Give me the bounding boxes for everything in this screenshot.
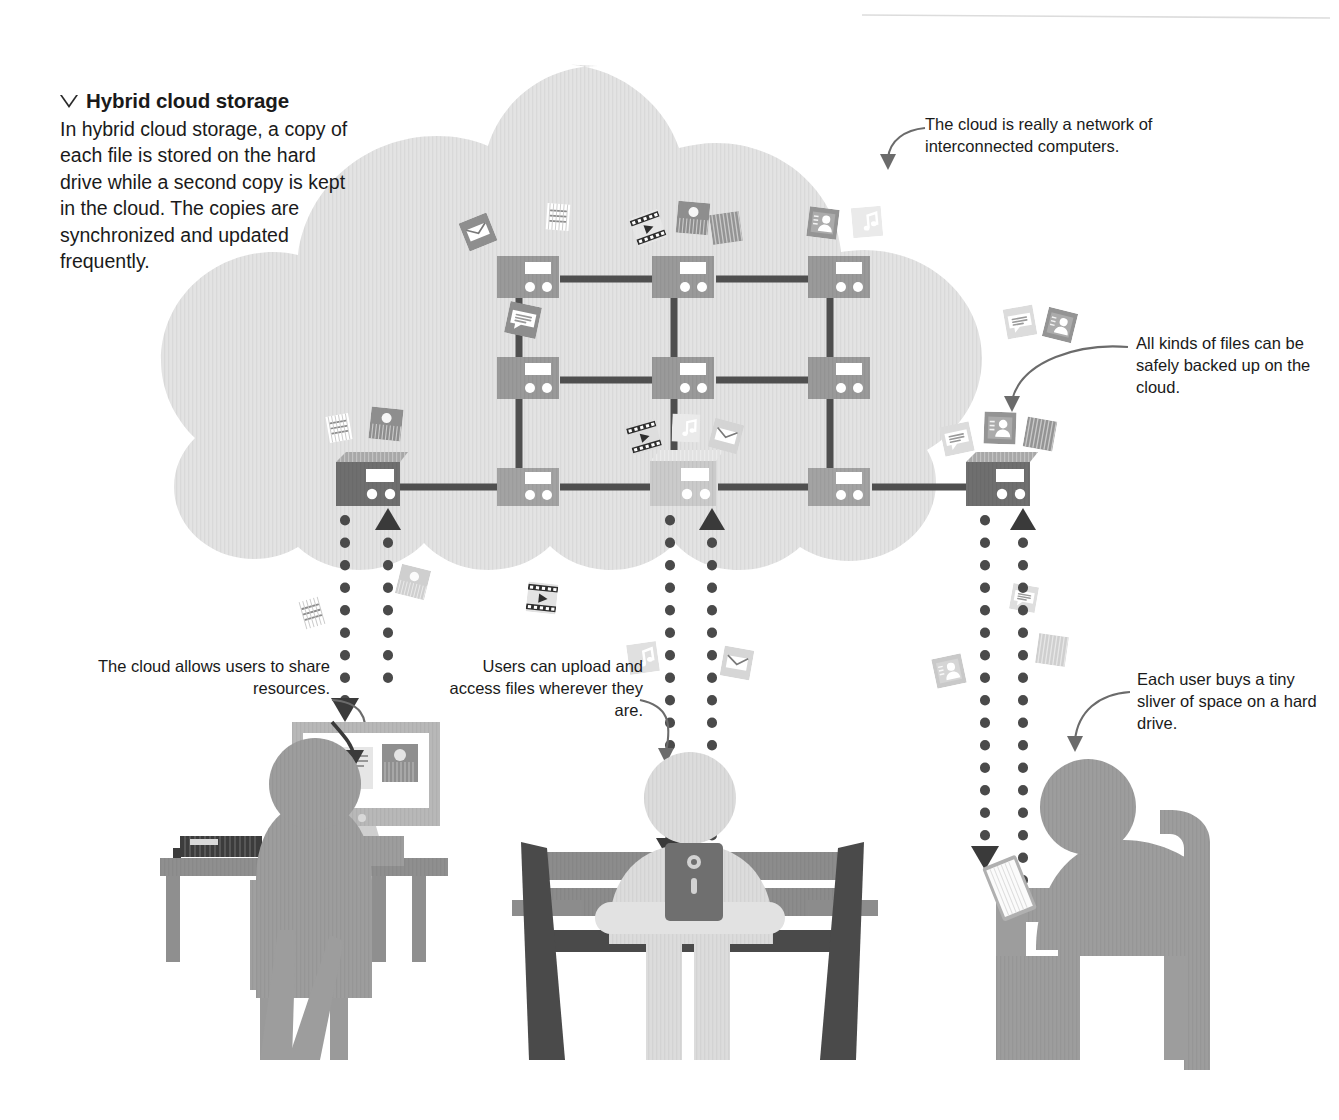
desk-leg-right	[372, 876, 386, 962]
leader-sliver	[1075, 692, 1130, 740]
intro-block: Hybrid cloud storage In hybrid cloud sto…	[60, 88, 360, 275]
server-mid-2	[652, 357, 714, 399]
triangle-down-icon	[60, 95, 78, 108]
callout-share: The cloud allows users to share resource…	[80, 655, 330, 699]
keyboard	[173, 836, 262, 858]
leader-files	[1012, 346, 1128, 400]
server-bottom-2	[497, 468, 559, 506]
contacts-icon	[931, 653, 967, 689]
contacts-icon	[1042, 307, 1078, 343]
intro-title-text: Hybrid cloud storage	[86, 88, 289, 115]
chair-leg-back	[1164, 956, 1186, 1060]
image-icon	[1035, 633, 1069, 667]
server-mid-1	[497, 357, 559, 399]
leader-upload	[640, 700, 668, 752]
photo-icon	[395, 564, 431, 600]
server-mid-3	[808, 357, 870, 399]
leader-network	[888, 128, 925, 158]
callout-upload: Users can upload and access files wherev…	[448, 655, 643, 721]
person-bench-body	[595, 752, 785, 1060]
image-icon	[709, 211, 743, 245]
callout-sliver: Each user buys a tiny sliver of space on…	[1137, 668, 1327, 734]
server-top-2	[652, 256, 714, 298]
music-icon	[672, 414, 701, 443]
top-divider-rule	[862, 15, 1330, 18]
server-bottom-3	[650, 450, 724, 506]
video-icon	[526, 582, 559, 615]
photo-icon	[676, 201, 711, 236]
person-at-desk-scene	[160, 722, 448, 1060]
document-icon	[546, 203, 571, 231]
desk-leg-left	[166, 876, 180, 962]
image-icon	[1023, 417, 1058, 452]
document-icon	[326, 413, 353, 443]
music-icon	[851, 206, 884, 239]
callout-network: The cloud is really a network of interco…	[925, 113, 1205, 157]
message-icon	[1003, 305, 1038, 340]
contacts-icon	[983, 411, 1016, 444]
person-in-chair-scene	[982, 759, 1210, 1070]
document-icon	[296, 596, 327, 630]
server-bottom-1	[336, 452, 408, 506]
server-top-1	[497, 256, 559, 298]
infographic-canvas: Hybrid cloud storage In hybrid cloud sto…	[0, 0, 1339, 1120]
person-chair-body	[982, 759, 1186, 1060]
person-on-bench-scene	[512, 752, 878, 1060]
message-icon	[939, 421, 975, 457]
contacts-icon	[806, 206, 839, 239]
intro-body-text: In hybrid cloud storage, a copy of each …	[60, 116, 360, 275]
server-bottom-5	[966, 452, 1038, 506]
desk-leg-right-2	[412, 876, 426, 962]
page-title: Hybrid cloud storage	[60, 88, 360, 115]
server-bottom-4	[808, 468, 870, 506]
callout-files: All kinds of files can be safely backed …	[1136, 332, 1336, 398]
message-icon	[504, 301, 542, 339]
envelope-icon	[720, 646, 755, 681]
photo-icon	[368, 406, 403, 441]
server-top-3	[808, 256, 870, 298]
